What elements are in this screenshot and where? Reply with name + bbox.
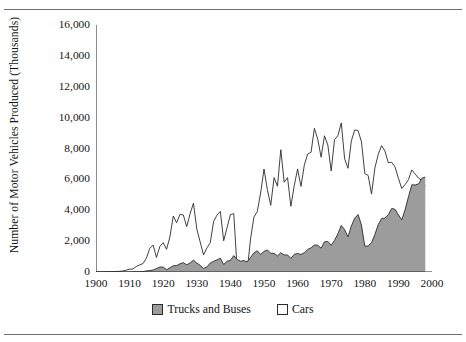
y-tick-label: 12,000 bbox=[36, 81, 90, 92]
legend-item-cars[interactable]: Cars bbox=[277, 303, 314, 315]
legend-item-trucks-and-buses[interactable]: Trucks and Buses bbox=[152, 303, 250, 315]
y-axis-title: Number of Motor Vehicles Produced (Thous… bbox=[8, 0, 30, 306]
chart-canvas bbox=[96, 25, 432, 272]
legend-swatch-cars-icon bbox=[277, 304, 288, 315]
y-tick-label: 0 bbox=[36, 266, 90, 277]
y-tick-label: 10,000 bbox=[36, 112, 90, 123]
x-tick-label: 2000 bbox=[406, 277, 458, 289]
y-tick-label: 14,000 bbox=[36, 50, 90, 61]
legend-label-trucks: Trucks and Buses bbox=[167, 303, 250, 315]
chart-legend: Trucks and Buses Cars bbox=[0, 303, 466, 315]
chart-figure: Number of Motor Vehicles Produced (Thous… bbox=[0, 0, 466, 342]
y-tick-label: 4,000 bbox=[36, 204, 90, 215]
y-tick-label: 2,000 bbox=[36, 235, 90, 246]
x-axis-tick-labels: 1900191019201930194019501960197019801990… bbox=[0, 277, 466, 293]
legend-swatch-trucks-icon bbox=[152, 304, 163, 315]
legend-label-cars: Cars bbox=[292, 303, 314, 315]
y-tick-label: 8,000 bbox=[36, 143, 90, 154]
y-tick-label: 6,000 bbox=[36, 173, 90, 184]
plot-area bbox=[96, 25, 432, 272]
y-tick-label: 16,000 bbox=[36, 19, 90, 30]
